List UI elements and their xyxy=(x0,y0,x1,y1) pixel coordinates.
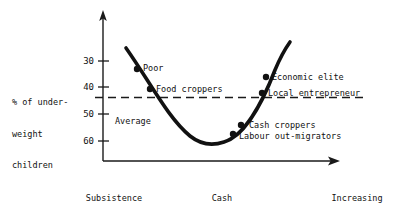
annotation-labour-out-migrators: Labour out-migrators xyxy=(239,131,341,141)
data-point-labour-out-migrators xyxy=(230,131,236,137)
annotation-poor: Poor xyxy=(143,63,163,73)
y-tick-label-60: 60 xyxy=(74,136,94,146)
data-point-economic-elite xyxy=(263,74,269,80)
data-point-cash-croppers xyxy=(238,122,244,128)
annotation-economic-elite: Economic elite xyxy=(272,72,344,82)
y-tick-label-30: 30 xyxy=(74,56,94,66)
x-category-cash-line-1: Cash xyxy=(176,193,268,204)
x-category-subsistence-cropping: Subsistence cropping xyxy=(68,172,160,204)
y-tick-label-50: 50 xyxy=(74,109,94,119)
y-axis-title-line-3: children xyxy=(12,160,94,171)
chart-figure: % of under- weight children 30 40 50 60 … xyxy=(0,0,417,204)
y-tick-label-40: 40 xyxy=(74,82,94,92)
annotation-local-entrepreneur: Local entrepreneur xyxy=(268,88,360,98)
data-point-local-entrepreneur xyxy=(259,90,265,96)
x-category-monetarisation-line-1: Increasing xyxy=(302,193,412,204)
annotation-food-croppers: Food croppers xyxy=(156,84,223,94)
x-category-cash-cropping: Cash cropping xyxy=(176,172,268,204)
data-point-food-croppers xyxy=(147,86,153,92)
x-category-increasing-monetarisation: Increasing monetarisation xyxy=(302,172,412,204)
average-label: Average xyxy=(115,116,151,126)
x-category-subsistence-line-1: Subsistence xyxy=(68,193,160,204)
data-point-poor xyxy=(134,66,140,72)
annotation-cash-croppers: Cash croppers xyxy=(249,120,316,130)
y-axis-title-line-1: % of under- xyxy=(12,97,94,108)
